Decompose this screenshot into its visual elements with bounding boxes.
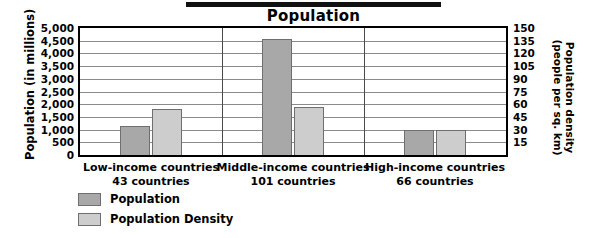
- bar-population-density-2: [294, 107, 324, 155]
- category-name: High-income countries: [365, 161, 505, 174]
- bar-population-3: [404, 130, 434, 155]
- chart-legend: Population Population Density: [78, 189, 233, 229]
- legend-swatch-population: [78, 193, 101, 206]
- legend-label-population: Population: [110, 192, 180, 206]
- y-axis-right-tick: 150: [513, 23, 539, 33]
- group-separator: [364, 28, 365, 155]
- x-axis-category-label: Low-income countries43 countries: [70, 161, 232, 189]
- category-count: 66 countries: [354, 175, 516, 189]
- gridline: [80, 41, 506, 42]
- legend-label-population-density: Population Density: [110, 212, 233, 226]
- y-axis-left-tick: 4,000: [30, 48, 74, 58]
- bar-population-density-1: [152, 109, 182, 155]
- y-axis-right-tick: 60: [513, 99, 539, 109]
- category-name: Middle-income countries: [217, 161, 370, 174]
- gridline: [80, 92, 506, 93]
- y-axis-right-tick: 45: [513, 112, 539, 122]
- legend-item-population-density: Population Density: [78, 209, 233, 229]
- bar-population-density-3: [436, 130, 466, 155]
- gridline: [80, 104, 506, 105]
- gridline: [80, 117, 506, 118]
- y-axis-right-tick: 105: [513, 61, 539, 71]
- x-axis-category-label: Middle-income countries101 countries: [212, 161, 374, 189]
- y-axis-right-tick: 15: [513, 137, 539, 147]
- category-count: 101 countries: [212, 175, 374, 189]
- legend-item-population: Population: [78, 189, 233, 209]
- category-name: Low-income countries: [83, 161, 219, 174]
- gridline: [80, 53, 506, 54]
- y-axis-right-tick: 30: [513, 125, 539, 135]
- y-axis-right-tick: 90: [513, 74, 539, 84]
- legend-swatch-population-density: [78, 213, 101, 226]
- chart-title: Population: [186, 7, 441, 25]
- y-axis-left-tick: 0: [30, 150, 74, 160]
- category-count: 43 countries: [70, 175, 232, 189]
- y-axis-left-tick: 2,000: [30, 99, 74, 109]
- y-axis-left-tick: 3,000: [30, 74, 74, 84]
- y-axis-right-title: Population density (people per sq. km): [552, 28, 575, 168]
- y-axis-left-tick: 4,500: [30, 36, 74, 46]
- y-axis-left-tick: 3,500: [30, 61, 74, 71]
- y-axis-left-tick: 500: [30, 137, 74, 147]
- gridline: [80, 66, 506, 67]
- bar-population-2: [262, 39, 292, 155]
- gridline: [80, 79, 506, 80]
- y-axis-right-tick: 120: [513, 48, 539, 58]
- y-axis-left-tick: 5,000: [30, 23, 74, 33]
- group-separator: [222, 28, 223, 155]
- y-axis-right-tick: 75: [513, 87, 539, 97]
- y-axis-left-tick: 2,500: [30, 87, 74, 97]
- plot-area: [78, 26, 508, 157]
- y-axis-right-tick: 135: [513, 36, 539, 46]
- y-axis-left-tick: 1,000: [30, 125, 74, 135]
- x-axis-category-label: High-income countries66 countries: [354, 161, 516, 189]
- bar-population-1: [120, 126, 150, 155]
- y-axis-left-tick: 1,500: [30, 112, 74, 122]
